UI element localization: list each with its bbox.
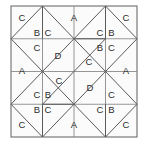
- tile-label-r4-bot-center: A: [71, 119, 78, 130]
- tile-label-r3-c2-upper: C: [56, 75, 63, 86]
- tile-label-r2-c2-square: D: [55, 50, 62, 61]
- tile-label-r2-c3-inner: B: [97, 42, 103, 53]
- tile-label-mid-left-a: A: [19, 65, 26, 76]
- tile-label-r4-c4-inner: B: [108, 104, 114, 115]
- tile-label-r3-c2-inner: B: [45, 89, 51, 100]
- tile-label-mid-right-a: A: [123, 65, 130, 76]
- tile-label-r2-c3-lower: C: [86, 56, 93, 67]
- tile-label-r1-top-center: A: [71, 12, 78, 23]
- tile-label-r1-c3-right: C: [97, 27, 104, 38]
- tile-label-r4-c1-inner: B: [34, 104, 40, 115]
- tile-label-r3-c1-inner: C: [34, 89, 41, 100]
- tile-label-r1-c4-outer: C: [123, 12, 130, 23]
- tile-label-r1-c1-outer: C: [19, 12, 26, 23]
- figure-root: C B C A C B C C D B C C A A C D C B C B …: [0, 0, 148, 144]
- tile-label-r2-c4-inner: C: [108, 42, 115, 53]
- tile-label-r4-c2-left: C: [45, 104, 52, 115]
- tile-label-r3-c3-square: D: [87, 82, 94, 93]
- tile-label-r1-c1-inner: B: [34, 27, 40, 38]
- tile-label-r4-c4-outer: C: [123, 119, 130, 130]
- tile-label-r4-c1-outer: C: [19, 119, 26, 130]
- tiling-diagram: C B C A C B C C D B C C A A C D C B C B …: [0, 0, 148, 144]
- tile-label-r2-c1-inner: C: [34, 42, 41, 53]
- tile-label-r1-c2-left: C: [45, 27, 52, 38]
- tile-label-r1-c4-inner: B: [108, 27, 114, 38]
- tile-label-r4-c3-right: C: [97, 104, 104, 115]
- tile-label-r3-c4-inner: C: [108, 89, 115, 100]
